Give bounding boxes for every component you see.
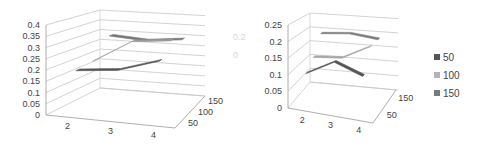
- y-tick-label: 0.05: [264, 86, 282, 96]
- y-tick-label: 0.15: [22, 76, 40, 86]
- legend-label: 50: [443, 52, 454, 63]
- y-tick-label: 0: [35, 110, 40, 120]
- x-tick-label: 3: [108, 126, 113, 136]
- right-3d-line-chart: 00.050.10.150.20.2523450150: [264, 13, 413, 135]
- y-tick-label: 0.3: [27, 43, 40, 53]
- series-ribbon-100: [313, 45, 372, 58]
- depth-tick-label: 100: [198, 107, 213, 117]
- x-tick-label: 4: [151, 130, 156, 140]
- y-tick-label: 0.2: [27, 65, 40, 75]
- depth-tick-label: 150: [208, 96, 223, 106]
- x-tick-label: 4: [356, 125, 361, 135]
- series-ribbon-50: [76, 59, 162, 70]
- y-tick-label: 0.2: [269, 37, 282, 47]
- clipped-label-1: 0.2: [233, 32, 246, 42]
- x-tick-label: 2: [300, 115, 305, 125]
- legend-swatch-50: [434, 54, 440, 60]
- depth-tick-label: 150: [398, 93, 413, 103]
- y-tick-label: 0.1: [27, 88, 40, 98]
- series-ribbon-150: [321, 32, 380, 39]
- x-tick-label: 2: [65, 121, 70, 131]
- depth-tick-label: 50: [387, 110, 397, 120]
- series-ribbon-100: [93, 39, 174, 61]
- chart-legend: 50 100 150: [434, 48, 460, 102]
- legend-item-50: 50: [434, 48, 460, 66]
- legend-swatch-100: [434, 72, 440, 78]
- charts-canvas: 00.050.10.150.20.250.30.350.423450100150…: [0, 0, 480, 146]
- y-tick-label: 0.25: [264, 20, 282, 30]
- y-tick-label: 0.25: [22, 54, 40, 64]
- depth-tick-label: 50: [188, 118, 198, 128]
- clipped-label-2: 0: [233, 50, 238, 60]
- left-3d-line-chart: 00.050.10.150.20.250.30.350.423450100150: [22, 10, 223, 140]
- y-tick-label: 0.05: [22, 99, 40, 109]
- y-tick-label: 0.35: [22, 31, 40, 41]
- legend-label: 150: [443, 88, 460, 99]
- legend-item-150: 150: [434, 84, 460, 102]
- x-tick-label: 3: [328, 120, 333, 130]
- y-tick-label: 0.15: [264, 53, 282, 63]
- y-tick-label: 0.4: [27, 20, 40, 30]
- y-tick-label: 0: [277, 103, 282, 113]
- legend-label: 100: [443, 70, 460, 81]
- legend-item-100: 100: [434, 66, 460, 84]
- y-tick-label: 0.1: [269, 70, 282, 80]
- legend-swatch-150: [434, 90, 440, 96]
